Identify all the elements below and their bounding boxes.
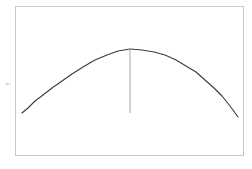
figure-canvas: y	[0, 0, 252, 169]
y-axis-label: y	[0, 78, 19, 90]
plot-area	[0, 0, 252, 169]
